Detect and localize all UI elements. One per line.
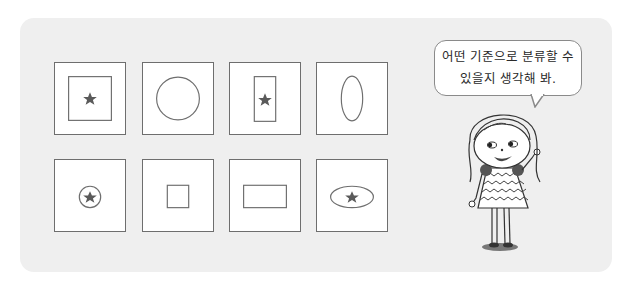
tall-ellipse-icon	[317, 63, 387, 134]
shape-card-wide-ellipse-star	[316, 159, 388, 232]
small-square-icon	[143, 160, 213, 231]
shape-card-small-circle-star	[54, 159, 126, 232]
speech-line-1: 어떤 기준으로 분류할 수	[435, 46, 581, 68]
wide-ellipse-with-star-icon	[317, 160, 387, 231]
shape-card-circle	[142, 62, 214, 135]
speech-line-2: 있을지 생각해 봐.	[435, 68, 581, 90]
tall-rectangle-with-star-icon	[230, 63, 300, 134]
shape-card-tall-rectangle-star	[229, 62, 301, 135]
shape-card-small-square	[142, 159, 214, 232]
girl-character-illustration	[440, 100, 560, 260]
small-circle-with-star-icon	[55, 160, 125, 231]
wide-rectangle-icon	[230, 160, 300, 231]
circle-icon	[143, 63, 213, 134]
square-with-star-icon	[55, 63, 125, 134]
shape-card-tall-ellipse	[316, 62, 388, 135]
speech-bubble: 어떤 기준으로 분류할 수 있을지 생각해 봐.	[434, 40, 582, 96]
shape-card-square-star	[54, 62, 126, 135]
shape-card-wide-rectangle	[229, 159, 301, 232]
